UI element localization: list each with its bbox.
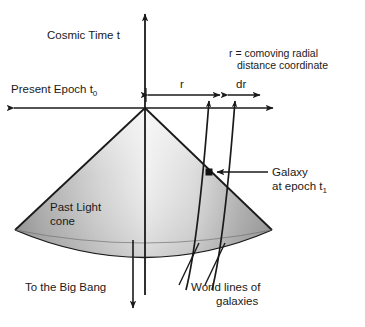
galaxy-label-line1: Galaxy — [272, 166, 308, 178]
world-lines-label-line1: World lines of — [191, 281, 261, 293]
galaxy-marker — [206, 169, 213, 176]
past-light-cone-label-line1: Past Light — [50, 201, 102, 213]
comoving-caption-line1: r = comoving radial — [229, 47, 318, 59]
spacetime-diagram-figure: Cosmic Time t Present Epoch t0 r = comov… — [0, 0, 365, 327]
galaxy-epoch-text: at epoch t — [272, 180, 323, 192]
present-epoch-text: Present Epoch t — [11, 83, 94, 95]
cosmic-time-label: Cosmic Time t — [47, 29, 121, 41]
present-epoch-label: Present Epoch t0 — [11, 83, 98, 98]
r-measure-label: r — [180, 78, 184, 90]
world-lines-label-line2: galaxies — [216, 295, 258, 307]
r-measure-bar — [146, 88, 220, 102]
present-epoch-subscript: 0 — [93, 89, 98, 98]
comoving-caption-line2: distance coordinate — [237, 59, 328, 71]
dr-measure-label: dr — [236, 78, 246, 90]
past-light-cone-label-line2: cone — [50, 215, 75, 227]
galaxy-label-line2: at epoch t1 — [272, 180, 328, 195]
galaxy-epoch-subscript: 1 — [323, 186, 328, 195]
diagram-canvas: Cosmic Time t Present Epoch t0 r = comov… — [0, 0, 365, 327]
big-bang-label: To the Big Bang — [25, 281, 106, 293]
